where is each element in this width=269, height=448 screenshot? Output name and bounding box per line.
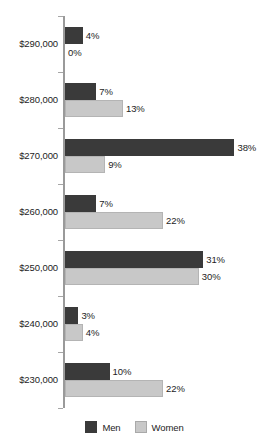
bar-men[interactable] [65, 83, 96, 100]
bar-row: 38% [65, 139, 265, 156]
bar-row: 3% [65, 307, 265, 324]
bar-group: $280,0007%13% [0, 72, 269, 128]
bar-value-label: 0% [68, 47, 82, 58]
bar-value-label: 38% [237, 142, 256, 153]
bar-row: 9% [65, 156, 265, 173]
bar-value-label: 30% [202, 271, 221, 282]
bar-men[interactable] [65, 195, 96, 212]
bar-men[interactable] [65, 307, 78, 324]
bar-men[interactable] [65, 251, 203, 268]
bar-men[interactable] [65, 363, 110, 380]
plot-area: $290,0004%0%$280,0007%13%$270,00038%9%$2… [0, 0, 269, 412]
bar-value-label: 4% [86, 327, 100, 338]
bar-women[interactable] [65, 324, 83, 341]
category-label: $290,000 [0, 38, 58, 49]
bar-value-label: 3% [81, 310, 95, 321]
category-label: $240,000 [0, 318, 58, 329]
legend-label-men: Men [102, 422, 120, 433]
bar-row: 22% [65, 380, 265, 397]
chart-legend: Men Women [0, 418, 269, 436]
bar-value-label: 22% [166, 383, 185, 394]
bar-row: 7% [65, 195, 265, 212]
bar-value-label: 7% [99, 198, 113, 209]
bar-value-label: 22% [166, 215, 185, 226]
bar-row: 4% [65, 324, 265, 341]
bar-value-label: 7% [99, 86, 113, 97]
bar-group: $240,0003%4% [0, 296, 269, 352]
bar-women[interactable] [65, 380, 163, 397]
category-label: $270,000 [0, 150, 58, 161]
bar-value-label: 13% [126, 103, 145, 114]
category-label: $230,000 [0, 374, 58, 385]
legend-label-women: Women [152, 422, 184, 433]
legend-item-women[interactable]: Women [135, 421, 184, 433]
axis-tick [58, 408, 63, 409]
men-swatch-icon [85, 421, 97, 433]
bar-group: $230,00010%22% [0, 352, 269, 408]
bar-row: 30% [65, 268, 265, 285]
bar-row: 10% [65, 363, 265, 380]
bar-men[interactable] [65, 27, 83, 44]
bar-group: $260,0007%22% [0, 184, 269, 240]
category-label: $260,000 [0, 206, 58, 217]
grouped-bar-chart: $290,0004%0%$280,0007%13%$270,00038%9%$2… [0, 0, 269, 448]
bar-value-label: 4% [86, 30, 100, 41]
bar-row: 7% [65, 83, 265, 100]
bar-row: 0% [65, 44, 265, 61]
bar-row: 4% [65, 27, 265, 44]
bar-women[interactable] [65, 268, 199, 285]
bar-group: $270,00038%9% [0, 128, 269, 184]
bar-group: $290,0004%0% [0, 16, 269, 72]
bar-women[interactable] [65, 212, 163, 229]
bar-value-label: 10% [113, 366, 132, 377]
bar-row: 13% [65, 100, 265, 117]
women-swatch-icon [135, 421, 147, 433]
bar-women[interactable] [65, 100, 123, 117]
bar-value-label: 31% [206, 254, 225, 265]
bar-row: 31% [65, 251, 265, 268]
bar-row: 22% [65, 212, 265, 229]
bar-men[interactable] [65, 139, 234, 156]
legend-item-men[interactable]: Men [85, 421, 120, 433]
bar-women[interactable] [65, 156, 105, 173]
category-label: $250,000 [0, 262, 58, 273]
bar-value-label: 9% [108, 159, 122, 170]
category-label: $280,000 [0, 94, 58, 105]
bar-group: $250,00031%30% [0, 240, 269, 296]
